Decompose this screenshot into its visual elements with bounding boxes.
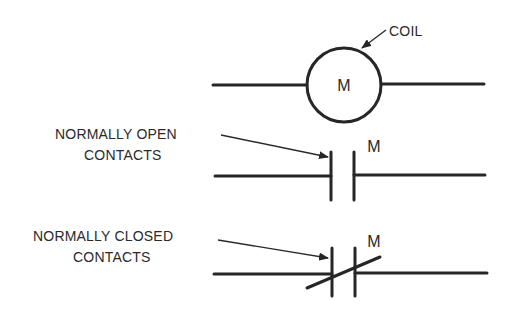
no-callout-arrow [221, 135, 328, 157]
coil-symbol-label: M [337, 77, 350, 94]
no-callout-line1: NORMALLY OPEN [55, 126, 177, 142]
coil-callout: COIL [362, 23, 422, 48]
relay-symbol-diagram: M COIL M NORMALLY OPEN CONTACTS M NORMAL… [0, 0, 521, 320]
no-callout-line2: CONTACTS [84, 147, 162, 163]
normally-open-contacts-symbol: M [215, 138, 485, 200]
nc-callout-line1: NORMALLY CLOSED [33, 228, 173, 244]
nc-callout-arrow [218, 240, 328, 258]
coil-callout-label: COIL [389, 23, 422, 39]
no-symbol-label: M [367, 138, 380, 155]
nc-symbol-label: M [367, 233, 380, 250]
coil-callout-arrow [362, 30, 386, 48]
normally-closed-callout: NORMALLY CLOSED CONTACTS [33, 228, 328, 265]
nc-callout-line2: CONTACTS [73, 249, 151, 265]
normally-open-callout: NORMALLY OPEN CONTACTS [55, 126, 328, 163]
normally-closed-contacts-symbol: M [214, 233, 487, 296]
coil-symbol: M [213, 48, 484, 122]
